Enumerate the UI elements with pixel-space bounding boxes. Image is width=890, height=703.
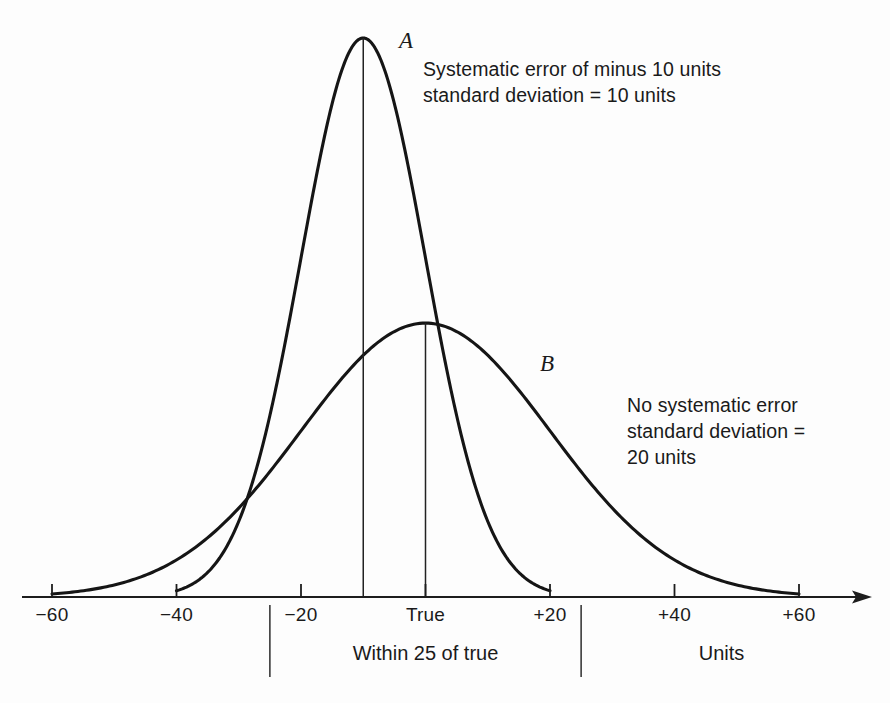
peak-dropline-layer xyxy=(363,38,425,597)
annotation-curve-b: No systematic error standard deviation =… xyxy=(627,392,805,470)
curve-label-a: A xyxy=(397,28,414,53)
band-label-within-25-of-true: Within 25 of true xyxy=(353,642,499,664)
x-tick-label-0: −60 xyxy=(36,604,69,625)
x-tick-label-6: +60 xyxy=(783,604,816,625)
axis-units-label: Units xyxy=(699,642,745,664)
x-tick-label-2: −20 xyxy=(285,604,318,625)
x-tick-label-1: −40 xyxy=(160,604,193,625)
normal-distribution-figure: −60−40−20True+20+40+60 AB Within 25 of t… xyxy=(0,0,890,703)
annotation-curve-a: Systematic error of minus 10 units stand… xyxy=(423,56,721,108)
x-axis-tick-labels: −60−40−20True+20+40+60 xyxy=(36,604,816,625)
curve-label-b: B xyxy=(540,351,554,376)
x-tick-label-3: True xyxy=(406,604,445,625)
x-tick-label-4: +20 xyxy=(534,604,567,625)
x-tick-label-5: +40 xyxy=(658,604,691,625)
